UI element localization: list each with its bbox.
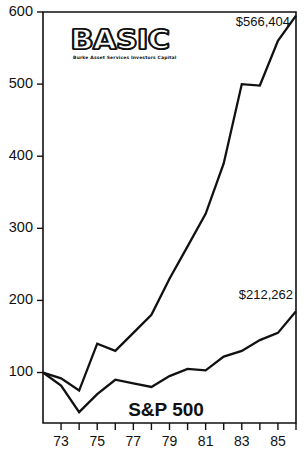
y-tick-label: 400 (9, 147, 33, 163)
x-tick-label: 73 (53, 433, 69, 449)
x-tick-label: 77 (126, 433, 142, 449)
x-tick-label: 83 (234, 433, 250, 449)
sp500-value-label: $212,262 (239, 287, 293, 302)
y-tick-label: 100 (9, 363, 33, 379)
y-tick-label: 500 (9, 75, 33, 91)
x-axis-ticks: 73757779818385 (53, 423, 296, 449)
chart-container: 100200300400500600 73757779818385 $566,4… (0, 0, 305, 460)
y-tick-label: 300 (9, 219, 33, 235)
x-tick-label: 75 (89, 433, 105, 449)
y-axis-ticks: 100200300400500600 (9, 3, 43, 380)
x-tick-label: 85 (270, 433, 286, 449)
sp500-series-annotation: S&P 500 (128, 399, 204, 420)
plot-frame (43, 12, 296, 423)
chart-canvas: 100200300400500600 73757779818385 $566,4… (0, 0, 305, 460)
series-line-basic (43, 16, 296, 391)
data-series-group (43, 16, 296, 413)
axis-frame (43, 12, 296, 423)
y-tick-label: 600 (9, 3, 33, 19)
series-line-s-p-500 (43, 311, 296, 412)
y-tick-label: 200 (9, 291, 33, 307)
x-tick-label: 79 (162, 433, 178, 449)
basic-value-label: $566,404 (236, 14, 290, 29)
x-tick-label: 81 (198, 433, 214, 449)
